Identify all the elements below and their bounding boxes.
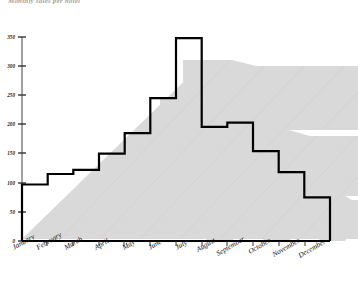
x-tick-label-july: July	[174, 237, 190, 251]
chart-container: Monthly sales per hotel	[0, 0, 358, 285]
y-tick-label-50: 50	[10, 209, 16, 215]
y-tick-label-300: 300	[6, 63, 15, 69]
y-tick-label-350: 350	[6, 34, 15, 40]
y-tick-label-150: 150	[7, 150, 15, 156]
depth-wedge-base	[22, 60, 358, 239]
stepped-area-chart-plot: 350 300 250 200 150 100 50 0	[0, 0, 358, 285]
depth-extrusion-group	[22, 18, 358, 241]
y-tick-label-100: 100	[7, 180, 15, 186]
y-tick-label-200: 200	[6, 121, 15, 127]
y-tick-label-250: 250	[6, 92, 15, 98]
x-tick-label-may: May	[120, 237, 137, 252]
